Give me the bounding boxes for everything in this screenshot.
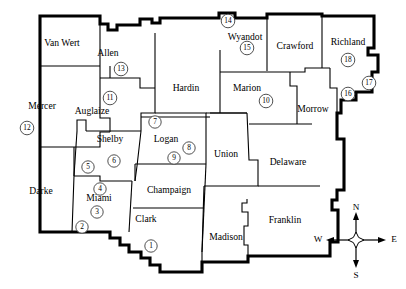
marker-label-5: 5 — [86, 162, 90, 171]
compass-east-arrow-icon — [378, 237, 386, 243]
site-marker[interactable]: 15 — [240, 41, 254, 55]
marker-label-16: 16 — [344, 89, 352, 98]
marker-label-8: 8 — [187, 143, 191, 152]
compass-label-north: N — [353, 202, 360, 212]
marker-label-14: 14 — [224, 16, 232, 25]
county-map: Van Wert Allen Mercer Auglaize Hardin Wy… — [0, 0, 406, 289]
marker-label-7: 7 — [153, 117, 157, 126]
marker-label-2: 2 — [80, 222, 84, 231]
county-label-allen: Allen — [97, 47, 119, 58]
site-marker[interactable]: 14 — [221, 14, 235, 28]
county-label-clark: Clark — [135, 213, 157, 224]
county-label-auglaize: Auglaize — [75, 105, 110, 116]
county-label-madison: Madison — [209, 231, 243, 242]
marker-label-6: 6 — [112, 156, 116, 165]
marker-label-10: 10 — [262, 96, 270, 105]
site-marker[interactable]: 2 — [76, 221, 88, 233]
county-label-van-wert: Van Wert — [44, 37, 80, 48]
site-marker[interactable]: 18 — [341, 53, 355, 67]
site-marker[interactable]: 6 — [108, 155, 120, 167]
site-marker[interactable]: 8 — [183, 142, 195, 154]
compass-label-west: W — [314, 234, 323, 244]
county-label-delaware: Delaware — [270, 156, 307, 167]
marker-label-3: 3 — [95, 207, 99, 216]
county-label-mercer: Mercer — [28, 100, 56, 111]
county-label-shelby: Shelby — [97, 133, 124, 144]
site-marker[interactable]: 1 — [145, 240, 157, 252]
marker-label-11: 11 — [106, 93, 113, 102]
marker-label-1: 1 — [149, 241, 153, 250]
compass-label-south: S — [353, 270, 358, 280]
county-label-hardin: Hardin — [173, 82, 200, 93]
marker-label-18: 18 — [344, 55, 352, 64]
site-marker[interactable]: 17 — [362, 76, 376, 90]
county-label-logan: Logan — [154, 133, 179, 144]
county-label-richland: Richland — [331, 36, 366, 47]
site-marker[interactable]: 16 — [341, 87, 355, 101]
county-label-crawford: Crawford — [277, 40, 314, 51]
compass-label-east: E — [391, 234, 397, 244]
county-label-darke: Darke — [29, 185, 52, 196]
site-marker[interactable]: 7 — [149, 116, 161, 128]
site-marker[interactable]: 9 — [168, 152, 180, 164]
marker-label-4: 4 — [98, 184, 102, 193]
marker-label-12: 12 — [23, 123, 31, 132]
county-label-franklin: Franklin — [269, 214, 302, 225]
marker-label-13: 13 — [117, 64, 125, 73]
county-label-champaign: Champaign — [147, 184, 191, 195]
marker-label-17: 17 — [365, 78, 373, 87]
site-marker[interactable]: 11 — [103, 91, 117, 105]
county-label-morrow: Morrow — [297, 103, 329, 114]
site-marker[interactable]: 3 — [91, 206, 103, 218]
site-marker[interactable]: 10 — [259, 94, 273, 108]
site-marker[interactable]: 12 — [20, 121, 34, 135]
map-canvas: Van Wert Allen Mercer Auglaize Hardin Wy… — [0, 0, 406, 289]
county-label-marion: Marion — [233, 82, 261, 93]
site-marker[interactable]: 13 — [114, 62, 128, 76]
marker-label-15: 15 — [243, 43, 251, 52]
county-label-union: Union — [214, 148, 238, 159]
site-marker[interactable]: 5 — [82, 161, 94, 173]
site-marker[interactable]: 4 — [94, 183, 106, 195]
marker-label-9: 9 — [172, 153, 176, 162]
county-label-wyandot: Wyandot — [228, 31, 263, 42]
